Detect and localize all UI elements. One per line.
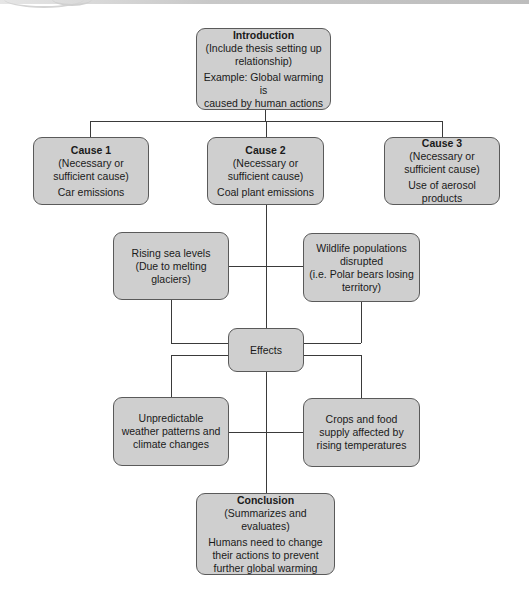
connector-weather-up [171, 355, 172, 397]
introduction-example: caused by human actions [204, 97, 323, 110]
effect-crops-box: Crops and food supply affected by rising… [303, 398, 420, 467]
cause-detail: Use of aerosol products [388, 179, 496, 205]
effect-text: supply affected by [319, 426, 403, 439]
effects-hub-box: Effects [228, 328, 304, 372]
effect-text: glaciers) [151, 273, 191, 286]
cause-3-box: Cause 3 (Necessary or sufficient cause) … [384, 137, 500, 205]
cause-type: (Necessary or [409, 150, 474, 163]
effect-wildlife-box: Wildlife populations disrupted (i.e. Pol… [303, 233, 420, 302]
introduction-subtitle: relationship) [235, 55, 292, 68]
cause-type: sufficient cause) [53, 170, 129, 183]
cause-title: Cause 3 [422, 137, 462, 150]
connector-effects-to-weather [171, 355, 229, 356]
cause-detail: Car emissions [58, 186, 125, 199]
effect-text: Wildlife populations [316, 242, 406, 255]
conclusion-text: further global warming [214, 562, 318, 575]
connector-sea-down [171, 300, 172, 343]
introduction-box: Introduction (Include thesis setting up … [196, 28, 331, 110]
cause-2-box: Cause 2 (Necessary or sufficient cause) … [207, 137, 324, 205]
introduction-title: Introduction [233, 29, 294, 42]
cause-type: sufficient cause) [228, 170, 304, 183]
cause-title: Cause 1 [71, 144, 111, 157]
connector-wildlife-down [361, 302, 362, 343]
effect-text: territory) [342, 281, 381, 294]
connector-upper-effects [228, 266, 304, 267]
effect-text: disrupted [340, 255, 383, 268]
effect-text: rising temperatures [317, 439, 407, 452]
cause-1-box: Cause 1 (Necessary or sufficient cause) … [33, 137, 149, 205]
connector-wildlife-to-effects [303, 343, 361, 344]
effect-weather-box: Unpredictable weather patterns and clima… [113, 397, 229, 466]
conclusion-box: Conclusion (Summarizes and evaluates) Hu… [196, 493, 335, 575]
effect-text: weather patterns and [122, 425, 221, 438]
effect-text: (Due to melting [135, 260, 206, 273]
effect-text: climate changes [133, 438, 209, 451]
effect-text: Crops and food [326, 413, 398, 426]
cause-type: (Necessary or [58, 157, 123, 170]
connector-cause1 [90, 121, 91, 137]
introduction-subtitle: (Include thesis setting up [205, 42, 321, 55]
conclusion-subtitle: (Summarizes and evaluates) [200, 507, 331, 533]
cause-title: Cause 2 [245, 144, 285, 157]
connector-effects-to-crops [303, 355, 361, 356]
effect-text: Rising sea levels [132, 247, 211, 260]
effect-rising-sea-levels-box: Rising sea levels (Due to melting glacie… [113, 232, 229, 300]
introduction-example: Example: Global warming is [200, 71, 327, 97]
connector-lower-effects [228, 432, 304, 433]
effect-text: (i.e. Polar bears losing [309, 268, 413, 281]
connector-crops-up [361, 355, 362, 398]
conclusion-text: their actions to prevent [212, 549, 318, 562]
effects-hub-label: Effects [250, 344, 282, 357]
cause-type: sufficient cause) [404, 163, 480, 176]
effect-text: Unpredictable [139, 412, 204, 425]
cause-detail: Coal plant emissions [217, 186, 314, 199]
conclusion-title: Conclusion [237, 494, 294, 507]
connector-cause3 [442, 121, 443, 137]
conclusion-text: Humans need to change [208, 536, 322, 549]
connector-sea-to-effects [171, 343, 229, 344]
cause-type: (Necessary or [233, 157, 298, 170]
